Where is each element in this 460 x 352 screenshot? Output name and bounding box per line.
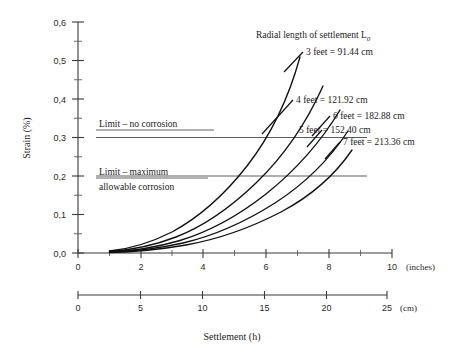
x-axis-inches-tick-labels: 0 2 4 6 8 10 (inches) [75, 262, 435, 272]
x-axis-cm [78, 291, 387, 299]
x-tick-label-inches: 0 [75, 262, 80, 272]
x-axis-unit-inches: (inches) [406, 262, 435, 272]
x-axis-unit-cm: (cm) [400, 303, 417, 313]
series-label-3-feet: 3 feet = 91.44 cm [306, 47, 373, 57]
series-group-title-text: Radial length of settlement L [256, 30, 367, 40]
x-tick-label-inches: 2 [138, 262, 143, 272]
curve-7-feet [110, 150, 353, 253]
x-tick-label-inches: 8 [326, 262, 331, 272]
y-tick-label: 0,2 [53, 172, 66, 182]
y-tick-label: 0,3 [53, 133, 66, 143]
x-axis-cm-tick-labels: 0 5 10 15 20 25 (cm) [75, 303, 417, 313]
y-axis-tick-labels: 0,0 0,1 0,2 0,3 0,4 0,5 0,6 [53, 18, 66, 259]
y-tick-label: 0,0 [53, 249, 66, 259]
x-axis-title: Settlement (h) [204, 331, 261, 343]
y-tick-label: 0,5 [53, 56, 66, 66]
limit-label-max-corrosion-line1: Limit – maximum [99, 167, 169, 177]
series-annotations: 3 feet = 91.44 cm 4 feet = 121.92 cm 6 f… [262, 47, 415, 159]
limit-label-no-corrosion: Limit – no corrosion [99, 119, 178, 129]
series-label-6-feet: 6 feet = 182.88 cm [333, 111, 405, 121]
series-label-5-feet: 5 feet = 152.40 cm [299, 125, 371, 135]
x-tick-label-cm: 5 [138, 303, 143, 313]
x-tick-label-inches: 4 [200, 262, 205, 272]
y-axis-title: Strain (%) [21, 117, 33, 158]
series-label-4-feet: 4 feet = 121.92 cm [296, 95, 368, 105]
series-group-title: Radial length of settlement L0 [256, 30, 371, 43]
x-tick-label-inches: 6 [263, 262, 268, 272]
y-tick-label: 0,1 [53, 210, 66, 220]
curve-3-feet [110, 57, 301, 251]
x-tick-label-cm: 10 [197, 303, 207, 313]
x-tick-label-inches: 10 [387, 262, 397, 272]
x-tick-label-cm: 20 [321, 303, 331, 313]
x-tick-label-cm: 0 [75, 303, 80, 313]
x-axis-title-text: Settlement (h) [204, 331, 261, 343]
strain-settlement-chart: 0,0 0,1 0,2 0,3 0,4 0,5 0,6 Strain (%) 0… [0, 0, 460, 352]
y-tick-label: 0,4 [53, 95, 66, 105]
series-label-7-feet: 7 feet = 213.36 cm [343, 137, 415, 147]
series-group-title-subscript: 0 [367, 35, 371, 43]
limit-label-max-corrosion-line2: allowable corrosion [99, 182, 174, 192]
data-curves [110, 57, 353, 253]
x-tick-label-cm: 25 [382, 303, 392, 313]
y-tick-label: 0,6 [53, 18, 66, 28]
x-tick-label-cm: 15 [259, 303, 269, 313]
y-axis [72, 22, 84, 253]
